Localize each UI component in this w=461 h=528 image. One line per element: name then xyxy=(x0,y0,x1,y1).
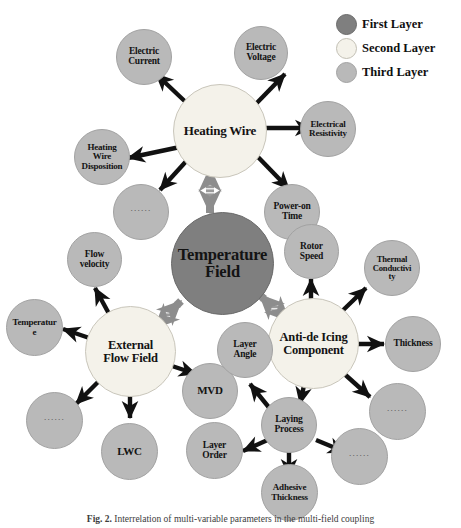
node-thickness[interactable]: Thickness xyxy=(385,316,441,372)
node-label-line1: Thickness xyxy=(393,339,434,349)
node-label-line1: Heating Wire xyxy=(183,124,257,137)
node-temperature-field[interactable]: Temperature Field xyxy=(171,212,274,315)
legend-item-third-layer: Third Layer xyxy=(336,60,458,84)
node-label-line2: Process xyxy=(273,425,304,435)
legend-label-second-layer: Second Layer xyxy=(362,41,435,56)
ellipsis-label: ······ xyxy=(386,408,409,415)
node-label-line3: Disposition xyxy=(81,162,124,171)
node-electric-current[interactable]: Electric Current xyxy=(116,29,172,85)
node-layer-order[interactable]: Layer Order xyxy=(186,422,243,479)
figure-caption: Fig. 2. Interrelation of multi-variable … xyxy=(0,514,461,524)
node-thermal-conductivity[interactable]: Thermal Conductivi ty xyxy=(364,240,420,296)
node-adhesive-thickness[interactable]: Adhesive Thickness xyxy=(261,464,318,521)
node-label-line2: Time xyxy=(272,212,311,222)
node-external-flow-field[interactable]: External Flow Field xyxy=(85,306,176,397)
node-label-line2: Current xyxy=(127,57,161,67)
node-label-line1: External xyxy=(102,339,159,352)
node-label-line2: Thickness xyxy=(270,493,309,502)
node-laying-process[interactable]: Laying Process xyxy=(261,397,317,453)
node-label-line2: e xyxy=(11,328,57,337)
node-label-line2: velocity xyxy=(79,260,111,270)
node-label-line2: Voltage xyxy=(245,53,277,63)
figure-caption-text: Interrelation of multi-variable paramete… xyxy=(114,514,374,524)
node-heating-wire[interactable]: Heating Wire xyxy=(173,84,267,178)
ellipsis-label: ······ xyxy=(348,453,371,460)
legend-swatch-first-layer xyxy=(336,14,357,35)
node-label-line2: Field xyxy=(177,264,268,281)
node-temperature[interactable]: Temperatur e xyxy=(6,299,63,356)
legend-label-first-layer: First Layer xyxy=(362,17,423,32)
node-label-line1: Anti-de Icing xyxy=(279,331,349,344)
node-label-line2: Flow Field xyxy=(102,352,159,365)
node-flow-velocity[interactable]: Flow velocity xyxy=(67,232,122,287)
node-electric-voltage[interactable]: Electric Voltage xyxy=(234,26,288,80)
node-lwc[interactable]: LWC xyxy=(101,423,158,480)
node-label-line1: Temperature xyxy=(177,247,268,264)
legend-item-second-layer: Second Layer xyxy=(336,36,458,60)
node-anti-de-icing-component[interactable]: Anti-de Icing Component xyxy=(268,298,359,389)
legend: First Layer Second Layer Third Layer xyxy=(336,12,458,84)
node-label-line2: Speed xyxy=(299,252,324,262)
node-label-line1: MVD xyxy=(196,385,224,396)
legend-label-third-layer: Third Layer xyxy=(362,65,428,80)
node-label-line2: Angle xyxy=(232,350,257,360)
node-heating-wire-more[interactable]: ······ xyxy=(113,184,169,240)
node-label-line2: Component xyxy=(279,344,349,357)
node-anti-de-icing-more[interactable]: ······ xyxy=(369,383,426,440)
node-label-line1: LWC xyxy=(116,446,143,457)
legend-swatch-third-layer xyxy=(336,62,357,83)
node-external-flow-more[interactable]: ······ xyxy=(26,392,83,449)
legend-item-first-layer: First Layer xyxy=(336,12,458,36)
node-label-line2: Resistivity xyxy=(308,129,348,138)
node-laying-process-more[interactable]: ······ xyxy=(331,428,388,485)
ellipsis-label: ······ xyxy=(129,208,152,215)
node-heating-wire-disposition[interactable]: Heating Wire Disposition xyxy=(74,129,130,185)
node-rotor-speed[interactable]: Rotor Speed xyxy=(284,224,339,279)
node-electrical-resistivity[interactable]: Electrical Resistivity xyxy=(300,101,356,157)
figure-caption-prefix: Fig. 2. xyxy=(87,514,112,524)
ellipsis-label: ······ xyxy=(43,417,66,424)
node-label-line2: Order xyxy=(201,451,227,461)
legend-swatch-second-layer xyxy=(336,38,357,59)
node-label-line3: ty xyxy=(372,272,413,281)
node-layer-angle[interactable]: Layer Angle xyxy=(217,322,273,378)
